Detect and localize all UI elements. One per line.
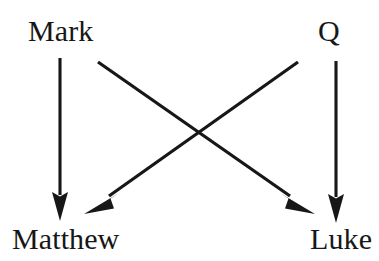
edge-mark-to-matthew: [52, 58, 68, 221]
edge-mark-to-luke-line: [98, 62, 290, 196]
edge-q-to-luke: [328, 61, 344, 223]
node-label-q: Q: [318, 16, 340, 46]
node-label-luke: Luke: [310, 224, 372, 254]
edge-mark-to-luke-arrowhead: [280, 193, 315, 214]
two-source-hypothesis-diagram: Mark Q Matthew Luke: [0, 0, 379, 261]
edge-mark-to-matthew-arrowhead: [52, 192, 68, 221]
node-label-mark: Mark: [28, 16, 93, 46]
edge-q-to-matthew: [84, 62, 298, 214]
edge-q-to-matthew-arrowhead: [84, 193, 119, 214]
node-label-matthew: Matthew: [12, 224, 119, 254]
edge-mark-to-luke: [98, 62, 315, 214]
edge-q-to-luke-arrowhead: [328, 194, 344, 223]
edge-q-to-matthew-line: [109, 62, 298, 196]
